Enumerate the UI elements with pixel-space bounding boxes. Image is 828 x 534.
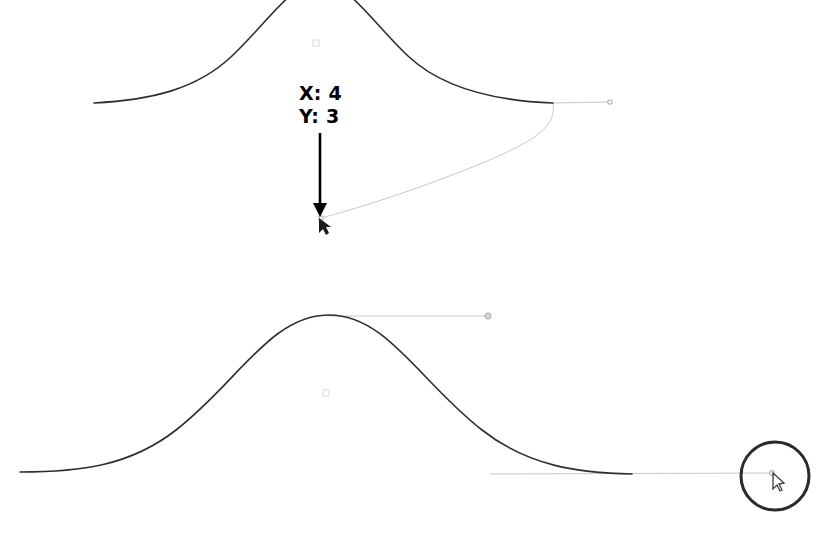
readout-y-value: Y: 3: [299, 105, 342, 128]
bottom-curve-path[interactable]: [20, 315, 632, 474]
faint-marker-top-icon: [313, 40, 319, 46]
faint-marker-bottom-icon: [323, 390, 329, 396]
top-right-handle-point[interactable]: [608, 100, 612, 104]
curve-canvas-svg[interactable]: [0, 0, 828, 534]
top-right-handle-line[interactable]: [553, 102, 610, 103]
bottom-peak-handle-point[interactable]: [485, 313, 491, 319]
drag-cursor-icon: [319, 218, 331, 235]
coordinate-readout: X: 4 Y: 3: [299, 82, 342, 128]
handle-cursor-icon: [773, 473, 784, 491]
editor-canvas[interactable]: X: 4 Y: 3: [0, 0, 828, 534]
pointer-arrow: [313, 133, 327, 217]
readout-x-value: X: 4: [299, 82, 342, 105]
cursor-highlight-circle: [741, 442, 809, 510]
dragged-handle-curve[interactable]: [321, 103, 553, 218]
